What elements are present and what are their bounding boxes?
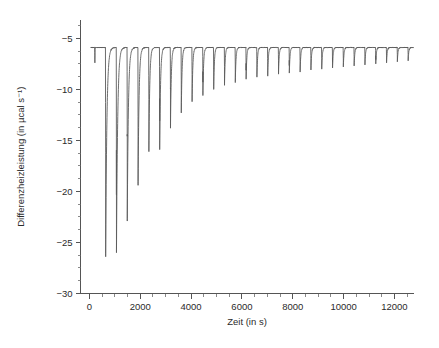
- x-tick-label: 2000: [130, 301, 151, 312]
- axis-labels-group: −5−10−15−20−25−3002000400060008000100001…: [15, 33, 408, 327]
- y-tick-label: −30: [56, 288, 72, 299]
- x-tick-label: 6000: [231, 301, 252, 312]
- data-trace-line: [91, 47, 413, 257]
- x-tick-label: 0: [87, 301, 92, 312]
- y-tick-label: −25: [56, 237, 72, 248]
- y-tick-label: −10: [56, 84, 72, 95]
- y-tick-label: −20: [56, 186, 72, 197]
- y-tick-label: −15: [56, 135, 72, 146]
- itc-thermogram-figure: −5−10−15−20−25−3002000400060008000100001…: [0, 0, 439, 348]
- x-tick-label: 4000: [181, 301, 202, 312]
- x-tick-label: 12000: [381, 301, 407, 312]
- y-tick-label: −5: [62, 33, 73, 44]
- axes-group: [76, 20, 414, 299]
- chart-canvas: −5−10−15−20−25−3002000400060008000100001…: [0, 0, 439, 348]
- y-axis-title: Differenzheizleistung (in µcal s⁻¹): [15, 87, 26, 227]
- x-tick-label: 8000: [282, 301, 303, 312]
- x-axis-title: Zeit (in s): [227, 316, 267, 327]
- x-tick-label: 10000: [330, 301, 356, 312]
